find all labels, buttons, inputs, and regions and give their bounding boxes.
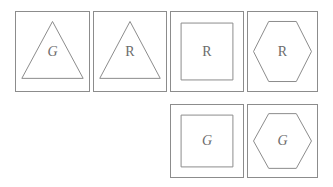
shape-card-square-r[interactable]: R [170, 11, 244, 92]
card-letter: R [171, 45, 243, 59]
card-letter: G [248, 134, 317, 148]
card-letter: G [16, 45, 89, 59]
shape-grid-canvas: GRRRGG [0, 0, 333, 187]
shape-card-hexagon-r[interactable]: R [247, 11, 318, 92]
card-letter: R [248, 45, 317, 59]
shape-card-square-g[interactable]: G [170, 104, 244, 178]
card-letter: G [171, 134, 243, 148]
shape-card-triangle-r[interactable]: R [93, 11, 167, 92]
shape-card-hexagon-g[interactable]: G [247, 104, 318, 178]
card-letter: R [94, 45, 166, 59]
shape-card-triangle-g[interactable]: G [15, 11, 90, 92]
